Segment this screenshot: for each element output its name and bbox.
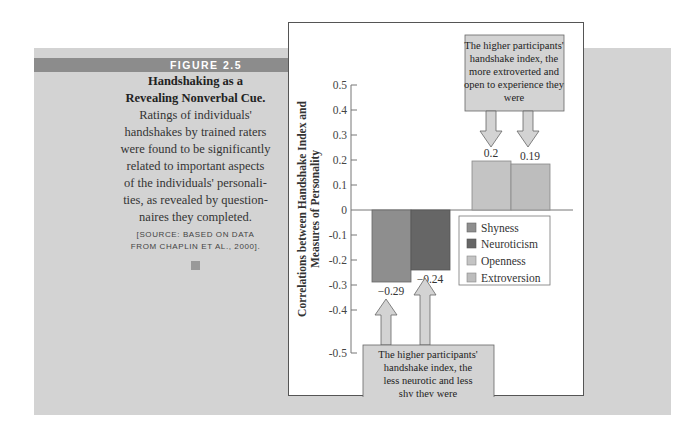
legend: Shyness Neuroticism Openness Extroversio…: [459, 216, 550, 285]
caption-line: naires they completed.: [108, 209, 283, 226]
figure-label-bar: FIGURE 2.5: [34, 58, 288, 72]
svg-text:less neurotic and less: less neurotic and less: [384, 375, 473, 386]
svg-text:0.3: 0.3: [333, 129, 348, 141]
legend-swatch-shyness: [467, 223, 476, 232]
svg-text:The higher participants': The higher participants': [378, 349, 477, 360]
bar-extroversion: [511, 164, 550, 210]
legend-label-openness: Openness: [481, 255, 526, 268]
caption-line: related to important aspects: [108, 158, 283, 175]
svg-text:shy they were: shy they were: [399, 388, 458, 397]
svg-text:0: 0: [341, 204, 347, 216]
source-line: FROM CHAPLIN ET AL., 2000].: [108, 241, 283, 253]
caption-source: [SOURCE: BASED ON DATA FROM CHAPLIN ET A…: [108, 229, 283, 253]
bar-openness: [472, 161, 511, 210]
arrow-down-icon: [517, 111, 539, 147]
svg-text:handshake index, the: handshake index, the: [470, 53, 559, 64]
caption-title-1: Handshaking as a: [108, 73, 283, 90]
svg-text:0.2: 0.2: [333, 154, 348, 166]
value-label-extroversion: 0.19: [520, 150, 540, 162]
value-label-openness: 0.2: [484, 147, 499, 159]
arrow-up-icon: [414, 278, 436, 345]
svg-text:-0.3: -0.3: [329, 279, 347, 291]
svg-text:The higher participants': The higher participants': [464, 40, 563, 51]
svg-text:-0.5: -0.5: [329, 347, 347, 359]
y-axis-label-1: Correlations between Handshake Index and: [296, 101, 308, 317]
chart-box: Correlations between Handshake Index and…: [288, 22, 584, 396]
bar-shyness: [372, 210, 411, 282]
svg-text:0.5: 0.5: [333, 79, 348, 91]
end-square-icon: [191, 261, 200, 270]
caption-line: were found to be significantly: [108, 141, 283, 158]
svg-text:0.1: 0.1: [333, 179, 348, 191]
svg-text:handshake index, the: handshake index, the: [384, 362, 473, 373]
svg-text:more extroverted and: more extroverted and: [469, 66, 560, 77]
figure-caption: Handshaking as a Revealing Nonverbal Cue…: [108, 73, 283, 270]
legend-swatch-extroversion: [467, 273, 476, 282]
y-tick-labels: 0.5 0.4 0.3 0.2 0.1 0 -0.1 -0.2 -0.3 -0.…: [329, 79, 347, 359]
legend-swatch-openness: [467, 256, 476, 265]
y-axis: [351, 85, 357, 353]
svg-text:-0.2: -0.2: [329, 254, 347, 266]
caption-line: ties, as revealed by question-: [108, 192, 283, 209]
svg-text:-0.4: -0.4: [329, 304, 347, 316]
svg-text:-0.1: -0.1: [329, 229, 347, 241]
svg-text:open to experience they: open to experience they: [464, 79, 565, 90]
caption-line: Ratings of individuals': [108, 107, 283, 124]
svg-text:were: were: [504, 92, 525, 103]
legend-label-shyness: Shyness: [481, 222, 519, 235]
legend-label-extroversion: Extroversion: [481, 272, 541, 284]
arrow-up-icon: [375, 299, 397, 345]
y-axis-label-2: Measures of Personality: [309, 150, 322, 268]
legend-swatch-neuroticism: [467, 239, 476, 248]
figure-label: FIGURE 2.5: [156, 58, 256, 72]
bar-chart: Correlations between Handshake Index and…: [289, 23, 585, 397]
value-label-neuroticism: −0.24: [417, 273, 444, 285]
caption-title-2: Revealing Nonverbal Cue.: [108, 90, 283, 107]
value-label-shyness: −0.29: [378, 285, 405, 297]
legend-label-neuroticism: Neuroticism: [481, 238, 538, 250]
bar-neuroticism: [411, 210, 450, 270]
caption-line: of the individuals' personali-: [108, 175, 283, 192]
caption-line: handshakes by trained raters: [108, 124, 283, 141]
source-line: [SOURCE: BASED ON DATA: [108, 229, 283, 241]
annotation-top: The higher participants' handshake index…: [464, 35, 565, 147]
svg-text:0.4: 0.4: [333, 104, 348, 116]
arrow-down-icon: [480, 111, 502, 147]
